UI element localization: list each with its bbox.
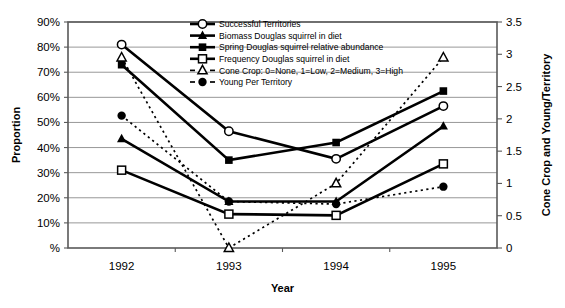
legend-label-4: Cone Crop: 0=None, 1=Low, 2=Medium, 3=Hi… <box>219 66 403 76</box>
x-axis-tick-label: 1995 <box>431 260 457 272</box>
x-axis-title: Year <box>271 282 295 294</box>
legend-marker-2 <box>199 43 207 51</box>
line-chart: %10%20%30%40%50%60%70%80%90%00.511.522.5… <box>0 0 565 308</box>
data-point-4 <box>439 53 448 61</box>
data-point-3 <box>225 210 233 218</box>
y2-axis-title: Cone Crop and Young/Territory <box>540 53 552 216</box>
data-point-2 <box>225 156 233 164</box>
legend-label-3: Frequency Douglas squirrel in diet <box>219 54 350 64</box>
y-axis-tick-label: 70% <box>37 66 60 78</box>
x-axis-tick-label: 1994 <box>323 260 349 272</box>
legend-label-2: Spring Douglas squirrel relative abundan… <box>219 42 384 52</box>
y2-axis-tick-label: 2 <box>506 113 512 125</box>
y2-axis-tick-label: 3.5 <box>506 16 522 28</box>
data-point-2 <box>118 61 126 69</box>
legend-marker-0 <box>198 20 206 28</box>
data-point-3 <box>439 160 447 168</box>
y-axis-tick-label: 20% <box>37 192 60 204</box>
y-axis-tick-label: 40% <box>37 142 60 154</box>
y-axis-title: Proportion <box>10 107 22 163</box>
data-point-5 <box>439 182 447 190</box>
data-point-0 <box>332 155 340 163</box>
y-axis-tick-label: 80% <box>37 41 60 53</box>
y2-axis-tick-label: 1.5 <box>506 145 522 157</box>
y-axis-tick-label: 30% <box>37 167 60 179</box>
y2-axis-tick-label: 2.5 <box>506 81 522 93</box>
data-point-1 <box>117 134 126 142</box>
legend-marker-3 <box>199 55 207 63</box>
x-axis-tick-label: 1992 <box>109 260 135 272</box>
data-point-5 <box>117 111 125 119</box>
y2-axis-tick-label: 0.5 <box>506 210 522 222</box>
data-point-0 <box>225 127 233 135</box>
y2-axis-tick-label: 0 <box>506 242 512 254</box>
y2-axis-tick-label: 1 <box>506 177 512 189</box>
data-point-2 <box>332 139 340 147</box>
x-axis-tick-label: 1993 <box>216 260 242 272</box>
legend-label-5: Young Per Territory <box>219 77 293 87</box>
legend-label-1: Biomass Douglas squirrel in diet <box>219 31 342 41</box>
legend-label-0: Successful Territories <box>219 19 301 29</box>
legend-marker-4 <box>198 65 207 73</box>
data-point-3 <box>118 166 126 174</box>
data-point-5 <box>332 200 340 208</box>
y-axis-tick-label: 60% <box>37 91 60 103</box>
data-point-5 <box>225 197 233 205</box>
y-axis-tick-label: % <box>50 242 60 254</box>
data-point-2 <box>440 87 448 95</box>
y2-axis-tick-label: 3 <box>506 48 512 60</box>
y-axis-tick-label: 10% <box>37 217 60 229</box>
data-point-0 <box>439 102 447 110</box>
y-axis-tick-label: 50% <box>37 116 60 128</box>
data-point-0 <box>117 40 125 48</box>
series-line-3 <box>122 164 444 215</box>
y-axis-tick-label: 90% <box>37 16 60 28</box>
data-point-4 <box>117 53 126 61</box>
chart-container: %10%20%30%40%50%60%70%80%90%00.511.522.5… <box>0 0 565 308</box>
data-point-3 <box>332 211 340 219</box>
legend-marker-5 <box>198 78 206 86</box>
